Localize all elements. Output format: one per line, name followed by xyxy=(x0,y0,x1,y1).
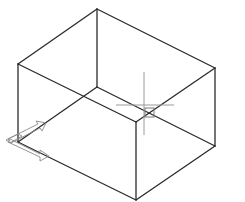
wireframe-drawing[interactable] xyxy=(0,0,245,202)
ucs-x-arrow-icon xyxy=(8,139,49,161)
edge-bottom-front-right[interactable] xyxy=(136,146,215,200)
ucs-icon xyxy=(6,121,49,161)
edge-bottom-front-left[interactable] xyxy=(18,142,136,200)
edge-top-back-right[interactable] xyxy=(97,9,215,68)
edge-top-front-left[interactable] xyxy=(18,64,136,122)
ucs-y-arrow-icon xyxy=(8,121,46,143)
edge-top-back-left[interactable] xyxy=(18,9,97,64)
drawing-viewport[interactable] xyxy=(0,0,245,202)
edge-bottom-back-right[interactable] xyxy=(97,87,215,146)
crosshair-cursor xyxy=(116,72,174,135)
edge-top-front-right[interactable] xyxy=(136,68,215,122)
